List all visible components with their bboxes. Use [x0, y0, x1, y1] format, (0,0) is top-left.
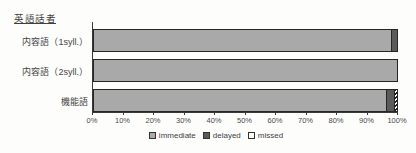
bar-segment-missed	[394, 90, 397, 111]
x-axis-tick-label: 30%	[169, 116, 199, 125]
x-axis-tick-mark	[214, 113, 215, 115]
bar-immediate-row-1	[93, 59, 398, 82]
legend-item-missed: missed	[248, 131, 283, 140]
bar-segment-immediate	[94, 90, 386, 111]
legend: immediatedelayedmissed	[8, 131, 416, 140]
legend-item-delayed: delayed	[203, 131, 241, 140]
chart-title: 英語話者	[14, 11, 56, 25]
x-axis-tick-label: 10%	[108, 116, 138, 125]
bar-segment-immediate	[94, 30, 391, 51]
x-axis-tick-label: 50%	[230, 116, 260, 125]
x-axis-tick-mark	[336, 113, 337, 115]
bar-immediate-row-2	[93, 89, 398, 112]
bar-immediate-row-0	[93, 29, 398, 52]
x-axis-tick-mark	[245, 113, 246, 115]
legend-item-immediate: immediate	[149, 131, 196, 140]
plot-area	[92, 22, 398, 113]
category-label: 内容語（2syll.）	[0, 64, 88, 77]
x-axis-tick-label: 100%	[382, 116, 412, 125]
legend-swatch-delayed-icon	[203, 132, 210, 139]
bar-segment-delayed	[386, 90, 394, 111]
x-axis-tick-mark	[306, 113, 307, 115]
x-axis-tick-label: 70%	[291, 116, 321, 125]
x-axis-tick-mark	[397, 113, 398, 115]
legend-swatch-missed-icon	[248, 132, 255, 139]
legend-label-immediate: immediate	[159, 131, 196, 140]
bar-segment-delayed	[391, 30, 397, 51]
x-axis-tick-mark	[367, 113, 368, 115]
legend-label-missed: missed	[258, 131, 283, 140]
category-label: 機能語	[0, 94, 88, 107]
stacked-bar-chart: 英語話者 immediatedelayedmissed 内容語（1syll.）内…	[0, 0, 416, 153]
x-axis-tick-mark	[123, 113, 124, 115]
x-axis-tick-label: 0%	[77, 116, 107, 125]
x-axis-tick-label: 80%	[321, 116, 351, 125]
x-axis-tick-label: 40%	[199, 116, 229, 125]
x-axis-tick-mark	[92, 113, 93, 115]
x-axis-tick-mark	[153, 113, 154, 115]
x-axis-tick-mark	[184, 113, 185, 115]
x-axis-tick-label: 60%	[260, 116, 290, 125]
bar-segment-immediate	[94, 60, 397, 81]
x-axis-tick-mark	[275, 113, 276, 115]
legend-swatch-immediate-icon	[149, 132, 156, 139]
x-axis-tick-label: 20%	[138, 116, 168, 125]
x-axis-tick-label: 90%	[352, 116, 382, 125]
legend-label-delayed: delayed	[213, 131, 241, 140]
category-label: 内容語（1syll.）	[0, 34, 88, 47]
